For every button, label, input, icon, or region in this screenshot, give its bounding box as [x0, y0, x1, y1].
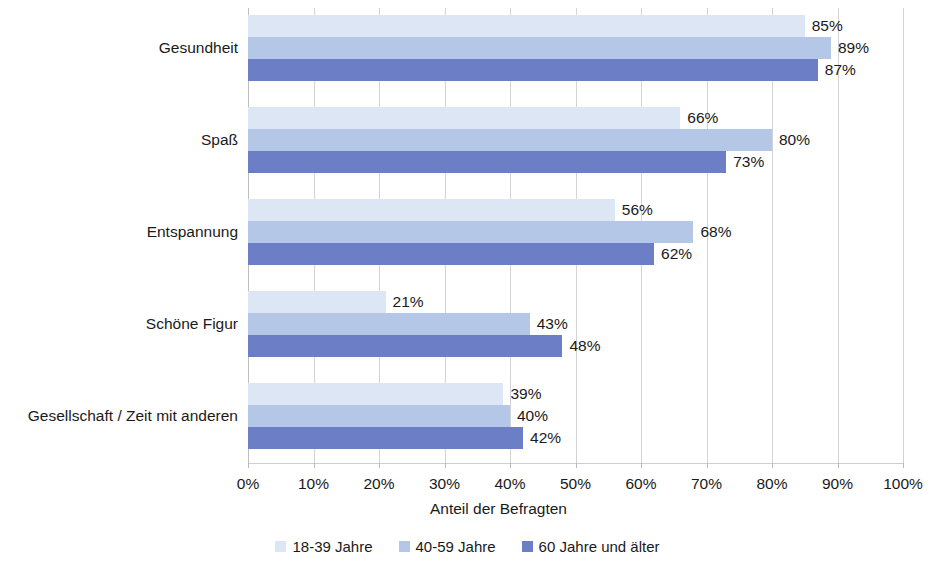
legend-item[interactable]: 60 Jahre und älter [522, 538, 660, 555]
bar [248, 291, 386, 313]
bar-value-label: 56% [615, 201, 653, 219]
x-axis-tick [314, 463, 315, 468]
bar-value-label: 40% [510, 407, 548, 425]
category-label: Gesellschaft / Zeit mit anderen [28, 407, 238, 425]
x-axis-tick-label: 0% [237, 475, 259, 493]
bar-value-label: 66% [680, 109, 718, 127]
bar [248, 313, 530, 335]
bar-group: 85%89%87% [248, 15, 903, 81]
legend-label: 18-39 Jahre [292, 538, 372, 555]
legend-label: 60 Jahre und älter [539, 538, 660, 555]
x-axis-tick-label: 10% [298, 475, 329, 493]
bar [248, 37, 831, 59]
bar-row: 48% [248, 335, 903, 357]
bar-row: 21% [248, 291, 903, 313]
bar-row: 62% [248, 243, 903, 265]
x-axis-tick [838, 463, 839, 468]
bar [248, 427, 523, 449]
gridline [903, 8, 904, 463]
category-label: Entspannung [147, 223, 238, 241]
x-axis-tick [772, 463, 773, 468]
legend-swatch-icon [399, 541, 410, 552]
x-axis-tick [510, 463, 511, 468]
x-axis-tick [576, 463, 577, 468]
bar [248, 199, 615, 221]
category-label: Gesundheit [159, 39, 238, 57]
legend-item[interactable]: 40-59 Jahre [399, 538, 496, 555]
bar-value-label: 21% [386, 293, 424, 311]
x-axis-tick-label: 50% [560, 475, 591, 493]
bar-value-label: 39% [503, 385, 541, 403]
chart-legend: 18-39 Jahre40-59 Jahre60 Jahre und älter [0, 538, 935, 555]
bar [248, 383, 503, 405]
legend-label: 40-59 Jahre [416, 538, 496, 555]
bar-group: 21%43%48% [248, 291, 903, 357]
bar-row: 73% [248, 151, 903, 173]
bar-group: 66%80%73% [248, 107, 903, 173]
bar [248, 221, 693, 243]
bar-row: 89% [248, 37, 903, 59]
x-axis-tick-label: 60% [625, 475, 656, 493]
x-axis-tick [379, 463, 380, 468]
x-axis-tick-label: 40% [494, 475, 525, 493]
category-label: Spaß [201, 131, 238, 149]
bar-row: 80% [248, 129, 903, 151]
bar-value-label: 85% [805, 17, 843, 35]
bar-value-label: 73% [726, 153, 764, 171]
x-axis-title-text: Anteil der Befragten [430, 500, 567, 517]
x-axis-tick-label: 30% [429, 475, 460, 493]
bar-value-label: 89% [831, 39, 869, 57]
x-axis-tick [903, 463, 904, 468]
bar-row: 68% [248, 221, 903, 243]
x-axis-tick [248, 463, 249, 468]
bar-row: 56% [248, 199, 903, 221]
bar [248, 335, 562, 357]
bar-row: 39% [248, 383, 903, 405]
x-axis-title: Anteil der Befragten [0, 500, 935, 518]
bar [248, 243, 654, 265]
x-axis-tick-label: 80% [756, 475, 787, 493]
legend-swatch-icon [522, 541, 533, 552]
x-axis-tick-label: 70% [691, 475, 722, 493]
bar [248, 405, 510, 427]
bar-value-label: 87% [818, 61, 856, 79]
bar [248, 129, 772, 151]
bar-value-label: 62% [654, 245, 692, 263]
bar-value-label: 68% [693, 223, 731, 241]
bar [248, 15, 805, 37]
bar-chart: GesundheitSpaßEntspannungSchöne FigurGes… [0, 0, 935, 570]
bar-row: 42% [248, 427, 903, 449]
bar-group: 56%68%62% [248, 199, 903, 265]
x-axis-tick [707, 463, 708, 468]
legend-swatch-icon [275, 541, 286, 552]
x-axis-tick-label: 20% [363, 475, 394, 493]
x-axis-tick-label: 100% [883, 475, 923, 493]
x-axis-tick [641, 463, 642, 468]
legend-item[interactable]: 18-39 Jahre [275, 538, 372, 555]
bar-row: 66% [248, 107, 903, 129]
bar-value-label: 80% [772, 131, 810, 149]
category-axis-labels: GesundheitSpaßEntspannungSchöne FigurGes… [0, 0, 238, 455]
bar-value-label: 43% [530, 315, 568, 333]
bar [248, 107, 680, 129]
bar [248, 151, 726, 173]
bar-value-label: 42% [523, 429, 561, 447]
bar-row: 85% [248, 15, 903, 37]
x-axis-tick-label: 90% [822, 475, 853, 493]
bar-row: 40% [248, 405, 903, 427]
bar-value-label: 48% [562, 337, 600, 355]
x-axis-tick [445, 463, 446, 468]
bar-row: 87% [248, 59, 903, 81]
bar-row: 43% [248, 313, 903, 335]
category-label: Schöne Figur [146, 315, 238, 333]
plot-area: 85%89%87%66%80%73%56%68%62%21%43%48%39%4… [248, 8, 903, 463]
bar-group: 39%40%42% [248, 383, 903, 449]
bar [248, 59, 818, 81]
